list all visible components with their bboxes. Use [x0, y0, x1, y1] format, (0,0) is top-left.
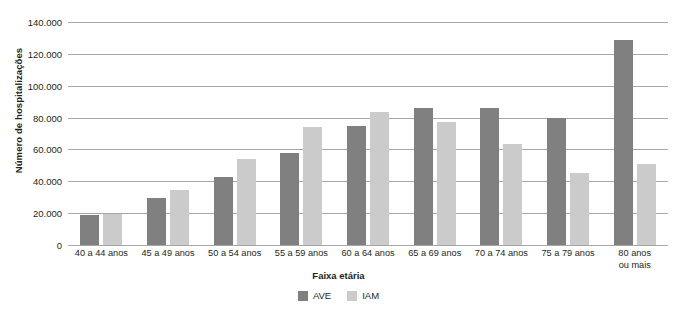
- x-axis-tick-label: 45 a 49 anos: [135, 248, 202, 271]
- y-axis-tick-label: 60.000: [0, 144, 62, 155]
- legend-swatch-icon: [298, 291, 308, 301]
- legend-item-iam[interactable]: IAM: [347, 290, 379, 301]
- bar-group: [601, 22, 668, 245]
- legend-swatch-icon: [347, 291, 357, 301]
- bar-iam[interactable]: [570, 173, 589, 245]
- y-axis-tick-label: 80.000: [0, 112, 62, 123]
- y-axis-tick-labels: 140.000120.000100.00080.00060.00040.0002…: [0, 22, 62, 245]
- bar-group: [535, 22, 602, 245]
- bar-group: [268, 22, 335, 245]
- x-axis-tick-label: 80 anos ou mais: [601, 248, 668, 271]
- bar-iam[interactable]: [437, 122, 456, 245]
- bar-ave[interactable]: [347, 126, 366, 245]
- bar-ave[interactable]: [147, 198, 166, 245]
- y-axis-tick-label: 0: [0, 240, 62, 251]
- bar-ave[interactable]: [480, 108, 499, 245]
- legend-item-ave[interactable]: AVE: [298, 290, 331, 301]
- bar-iam[interactable]: [370, 112, 389, 245]
- x-axis-tick-label: 70 a 74 anos: [468, 248, 535, 271]
- axis-baseline: [68, 245, 668, 246]
- bar-group: [135, 22, 202, 245]
- bar-iam[interactable]: [637, 164, 656, 245]
- x-axis-tick-label: 65 a 69 anos: [401, 248, 468, 271]
- bar-ave[interactable]: [214, 177, 233, 245]
- legend-label: AVE: [313, 290, 331, 301]
- bar-group: [401, 22, 468, 245]
- y-axis-tick-label: 140.000: [0, 17, 62, 28]
- bar-iam[interactable]: [503, 144, 522, 245]
- bar-ave[interactable]: [80, 215, 99, 245]
- x-axis-tick-label: 75 a 79 anos: [535, 248, 602, 271]
- plot-area: [68, 22, 668, 245]
- x-axis-tick-label: 55 a 59 anos: [268, 248, 335, 271]
- bar-iam[interactable]: [237, 159, 256, 245]
- bar-ave[interactable]: [547, 118, 566, 245]
- bar-iam[interactable]: [103, 214, 122, 245]
- legend-label: IAM: [362, 290, 379, 301]
- bar-group: [335, 22, 402, 245]
- bar-iam[interactable]: [170, 190, 189, 245]
- bar-group: [468, 22, 535, 245]
- x-axis-tick-labels: 40 a 44 anos45 a 49 anos50 a 54 anos55 a…: [68, 248, 668, 271]
- bar-ave[interactable]: [414, 108, 433, 245]
- x-axis-tick-label: 40 a 44 anos: [68, 248, 135, 271]
- chart-legend: AVEIAM: [0, 290, 677, 301]
- bar-groups: [68, 22, 668, 245]
- y-axis-tick-label: 40.000: [0, 176, 62, 187]
- bar-ave[interactable]: [614, 40, 633, 245]
- bar-chart: Número de hospitalizações 140.000120.000…: [0, 0, 677, 314]
- bar-group: [201, 22, 268, 245]
- bar-iam[interactable]: [303, 127, 322, 245]
- x-axis-title: Faixa etária: [0, 270, 677, 281]
- x-axis-tick-label: 50 a 54 anos: [201, 248, 268, 271]
- y-axis-tick-label: 20.000: [0, 208, 62, 219]
- y-axis-tick-label: 100.000: [0, 80, 62, 91]
- bar-group: [68, 22, 135, 245]
- x-axis-tick-label: 60 a 64 anos: [335, 248, 402, 271]
- bar-ave[interactable]: [280, 153, 299, 245]
- y-axis-tick-label: 120.000: [0, 48, 62, 59]
